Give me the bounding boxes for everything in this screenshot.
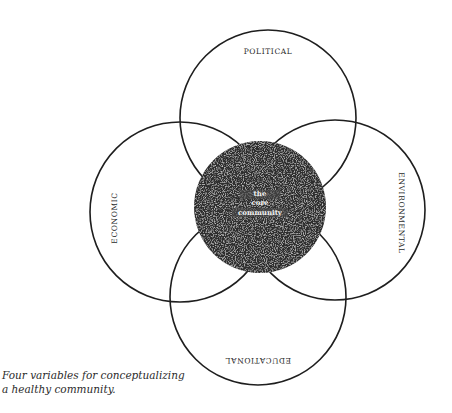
core-label-line1: the [254, 189, 267, 198]
core-label-line3: community [238, 208, 283, 217]
venn-diagram: the core community POLITICAL ECONOMIC EN… [0, 0, 452, 413]
economic-label: ECONOMIC [110, 192, 119, 243]
core-community-circle: the core community [194, 141, 326, 273]
environmental-label: ENVIRONMENTAL [397, 172, 406, 253]
core-label-line2: core [251, 198, 269, 207]
figure-caption: Four variables for conceptualizing a hea… [2, 368, 202, 396]
caption-line-1: Four variables for conceptualizing [2, 368, 202, 382]
caption-line-2: a healthy community. [2, 382, 202, 396]
political-label: POLITICAL [244, 47, 293, 56]
educational-label: EDUCATIONAL [225, 356, 291, 365]
